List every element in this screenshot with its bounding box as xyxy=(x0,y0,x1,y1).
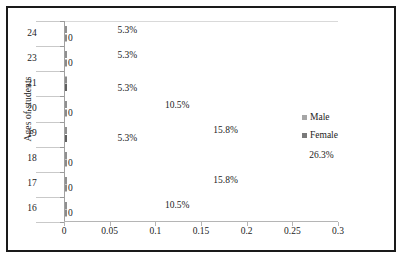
bar-group-item[interactable]: 26.3% xyxy=(65,152,305,159)
plot-area: 2423212019181716 5.3%05.3%05.3%10.5%015.… xyxy=(64,21,338,222)
zero-marker xyxy=(65,210,67,217)
category-label: 23 xyxy=(12,53,52,63)
category-tick xyxy=(60,21,64,22)
bar-group-item[interactable]: 0 xyxy=(65,109,66,116)
chart-canvas: Ages of students 2423212019181716 5.3%05… xyxy=(8,8,394,250)
category-tick xyxy=(60,172,64,173)
bar-value-label: 26.3% xyxy=(309,150,334,160)
category-label: 24 xyxy=(12,28,52,38)
category-label: 21 xyxy=(12,78,52,88)
bar-value-label: 15.8% xyxy=(213,175,238,185)
bar-group-item[interactable]: 0 xyxy=(65,160,66,167)
male-bar[interactable] xyxy=(65,26,67,33)
legend-swatch-icon xyxy=(302,115,307,120)
chart-border: Ages of students 2423212019181716 5.3%05… xyxy=(6,6,396,252)
x-axis-tick-label: 0.1 xyxy=(135,226,175,236)
category-label: 18 xyxy=(12,153,52,163)
chart-legend: MaleFemale xyxy=(302,112,382,148)
bar-value-label: 5.3% xyxy=(117,133,137,143)
bar-value-label: 0 xyxy=(68,33,73,43)
category-label: 19 xyxy=(12,128,52,138)
zero-marker xyxy=(65,160,67,167)
female-bar[interactable] xyxy=(65,135,67,142)
bar-value-label: 0 xyxy=(68,108,73,118)
bar-value-label: 5.3% xyxy=(117,50,137,60)
male-bar[interactable] xyxy=(65,101,67,108)
male-bar[interactable] xyxy=(65,202,67,209)
x-axis-tick-label: 0.25 xyxy=(272,226,312,236)
zero-marker xyxy=(65,109,67,116)
bar-value-label: 10.5% xyxy=(165,200,190,210)
male-bar[interactable] xyxy=(65,177,67,184)
bar-value-label: 10.5% xyxy=(165,100,190,110)
female-bar[interactable] xyxy=(65,84,67,91)
legend-item[interactable]: Male xyxy=(302,112,382,122)
category-tick xyxy=(60,122,64,123)
bar-value-label: 15.8% xyxy=(213,125,238,135)
x-axis-tick-label: 0 xyxy=(44,226,84,236)
bar-value-label: 0 xyxy=(68,58,73,68)
x-axis-tick-label: 0.3 xyxy=(318,226,358,236)
legend-swatch-icon xyxy=(302,133,307,138)
zero-marker xyxy=(65,185,67,192)
bar-value-label: 0 xyxy=(68,208,73,218)
bar-group-item[interactable]: 5.3% xyxy=(65,84,113,91)
male-bar[interactable] xyxy=(65,152,67,159)
zero-marker xyxy=(65,59,67,66)
bar-group-item[interactable]: 10.5% xyxy=(65,202,161,209)
bar-group-item[interactable] xyxy=(65,76,66,83)
zero-marker xyxy=(65,34,67,41)
category-label: 16 xyxy=(12,203,52,213)
category-label: 17 xyxy=(12,178,52,188)
bar-group-item[interactable]: 0 xyxy=(65,59,66,66)
category-tick xyxy=(60,147,64,148)
bar-value-label: 5.3% xyxy=(117,83,137,93)
legend-item[interactable]: Female xyxy=(302,130,382,140)
chart-figure: Ages of students 2423212019181716 5.3%05… xyxy=(0,0,402,258)
bar-group-item[interactable]: 15.8% xyxy=(65,177,209,184)
legend-label: Female xyxy=(310,130,338,140)
x-axis-tick-label: 0.15 xyxy=(181,226,221,236)
category-tick xyxy=(60,96,64,97)
bar-value-label: 5.3% xyxy=(117,25,137,35)
bar-group-item[interactable]: 5.3% xyxy=(65,135,113,142)
bar-value-label: 0 xyxy=(68,183,73,193)
category-label: 20 xyxy=(12,103,52,113)
legend-label: Male xyxy=(310,112,330,122)
x-axis-tick-label: 0.05 xyxy=(90,226,130,236)
bar-group-item[interactable]: 0 xyxy=(65,185,66,192)
category-tick xyxy=(60,71,64,72)
male-bar[interactable] xyxy=(65,127,67,134)
male-bar[interactable] xyxy=(65,51,67,58)
bar-group-item[interactable]: 0 xyxy=(65,210,66,217)
bar-group-item[interactable]: 10.5% xyxy=(65,101,161,108)
zero-marker xyxy=(65,76,67,83)
x-axis-tick-label: 0.2 xyxy=(227,226,267,236)
category-tick xyxy=(60,46,64,47)
category-tick xyxy=(60,197,64,198)
bar-group-item[interactable]: 0 xyxy=(65,34,66,41)
bar-value-label: 0 xyxy=(68,158,73,168)
top-gridline xyxy=(36,21,338,22)
